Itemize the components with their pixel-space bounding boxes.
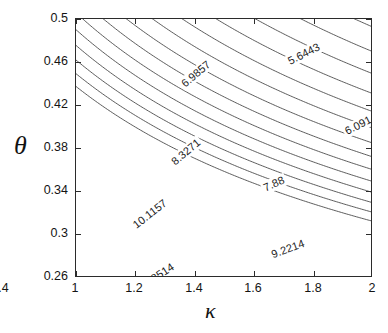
tick-x-top-1.4: [195, 19, 196, 24]
tick-y-0.38: [76, 148, 81, 149]
tick-y-right-0.3: [366, 234, 371, 235]
tick-y-0.3: [76, 234, 81, 235]
tick-x-1.4: [195, 271, 196, 276]
tick-x-top-1.8: [314, 19, 315, 24]
contour-line: [195, 19, 372, 52]
plot-area: 5.64436.09146.98577.888.32719.221410.115…: [75, 18, 372, 277]
contour-line: [76, 19, 372, 143]
x-tick-label-1.8: 1.8: [304, 282, 321, 295]
y-tick-label-0.42: 0.42: [2, 98, 68, 111]
contour-figure: θ 0.5 0.46 0.42 0.38 0.34 0.3 0.26 1 1.2…: [0, 0, 388, 333]
x-tick-label-1.4: 1.4: [0, 282, 9, 295]
tick-y-right-0.46: [366, 62, 371, 63]
tick-y-right-0.34: [366, 191, 371, 192]
contour-line: [76, 45, 372, 192]
y-tick-label-0.34: 0.34: [2, 184, 68, 197]
y-tick-label-0.38: 0.38: [2, 141, 68, 154]
contour-lines: [76, 19, 372, 277]
contour-line: [76, 19, 372, 157]
tick-x-top-1.2: [135, 19, 136, 24]
tick-x-top-1.6: [254, 19, 255, 24]
y-tick-label-0.46: 0.46: [2, 55, 68, 68]
y-tick-label-group: 0.5 0.46 0.42 0.38 0.34 0.3 0.26: [0, 0, 72, 333]
x-tick-label-2: 2: [369, 282, 376, 295]
contour-line: [76, 86, 372, 221]
x-tick-label-1: 1: [72, 282, 79, 295]
tick-x-1.2: [135, 271, 136, 276]
contour-line: [127, 19, 372, 94]
x-tick-label-1.2: 1.2: [125, 282, 142, 295]
tick-y-0.46: [76, 62, 81, 63]
y-tick-label-0.3: 0.3: [2, 227, 68, 240]
tick-y-0.42: [76, 105, 81, 106]
tick-x-top-1: [76, 19, 77, 24]
tick-x-1.6: [254, 271, 255, 276]
x-tick-label-1.4b: 1.4: [185, 282, 202, 295]
y-tick-label-0.5: 0.5: [2, 12, 68, 25]
tick-x-1: [76, 271, 77, 276]
tick-y-right-0.38: [366, 148, 371, 149]
tick-y-right-0.5: [366, 19, 371, 20]
tick-x-1.8: [314, 271, 315, 276]
tick-y-0.34: [76, 191, 81, 192]
contour-line: [76, 60, 372, 203]
x-tick-label-1.6: 1.6: [244, 282, 261, 295]
contour-line: [101, 19, 372, 112]
tick-y-right-0.42: [366, 105, 371, 106]
y-tick-label-0.26: 0.26: [2, 270, 68, 283]
x-axis-label: κ: [205, 300, 216, 322]
